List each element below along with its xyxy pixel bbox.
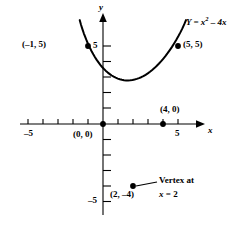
equation-lhs: Y = [186,17,201,27]
equation-rhs: – 4x [209,17,227,27]
point-label-4-0: (4, 0) [160,105,180,114]
x-axis-arrowhead [196,120,205,128]
y-tick-label-neg5: –5 [88,196,97,205]
x-tick-label-5: 5 [175,129,180,138]
point-marker-0-0 [100,121,106,127]
parabola-curve [80,20,186,80]
point-marker-4-0 [160,121,166,127]
y-axis-arrowhead [99,13,107,22]
equation-label: Y = x2 – 4x [186,18,227,27]
x-axis-label: x [208,126,213,135]
vertex-leader-line [136,182,157,186]
parabola-figure: (–1, 5) (5, 5) (0, 0) (4, 0) (2, –4) –5 … [0,0,231,226]
point-label-0-0: (0, 0) [73,130,93,139]
vertex-note-value: = 2 [164,189,178,199]
point-marker-5-5 [175,43,181,49]
point-label-5-5: (5, 5) [183,40,203,49]
x-tick-label-neg5: –5 [24,129,33,138]
point-label-2-neg4: (2, –4) [110,190,134,199]
vertex-note-line1: Vertex at [159,176,194,185]
point-marker-neg1-5 [85,43,91,49]
vertex-note-line2: x = 2 [159,190,178,199]
point-label-neg1-5: (–1, 5) [22,40,46,49]
y-tick-label-5: 5 [93,41,98,50]
y-axis-label: y [99,3,103,12]
